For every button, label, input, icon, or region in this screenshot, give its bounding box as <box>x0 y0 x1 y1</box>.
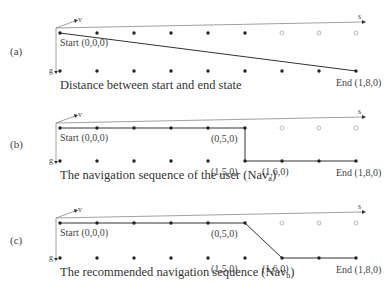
state-dot <box>206 31 209 34</box>
unvisited-state-dot <box>354 31 358 35</box>
state-dot <box>95 69 98 72</box>
state-dot <box>132 31 135 34</box>
v-axis <box>56 21 75 28</box>
state-dot <box>280 159 283 162</box>
state-dot <box>169 31 172 34</box>
caption: Distance between start and end state <box>60 79 242 92</box>
state-dot <box>243 69 246 72</box>
axis-label-v: v <box>78 16 82 24</box>
state-dot <box>58 31 61 34</box>
state-dot <box>206 221 209 224</box>
state-dot <box>132 159 135 162</box>
g-axis-arrow-icon <box>54 71 58 74</box>
state-dot <box>243 126 246 129</box>
state-dot <box>95 256 98 259</box>
axis-label-g: g <box>49 157 53 165</box>
axis-label-s: s <box>358 108 361 116</box>
coordinate-label: (0,5,0) <box>211 229 238 239</box>
state-dot <box>354 69 357 72</box>
s-axis-arrow-icon <box>362 20 366 24</box>
caption-suffix: ) <box>272 168 276 182</box>
state-dot <box>317 69 320 72</box>
axis-label-v: v <box>78 111 82 119</box>
unvisited-state-dot <box>354 221 358 225</box>
end-label: End (1,8,0) <box>336 78 381 88</box>
caption: The recommended navigation sequence (Nav… <box>60 266 295 280</box>
state-dot <box>169 159 172 162</box>
state-dot <box>243 159 246 162</box>
state-dot <box>95 126 98 129</box>
state-space-diagram <box>0 0 392 297</box>
unvisited-state-dot <box>280 126 284 130</box>
s-axis-arrow-icon <box>362 115 366 119</box>
s-axis <box>56 22 362 28</box>
g-axis-arrow-icon <box>54 258 58 261</box>
g-axis-arrow-icon <box>54 161 58 164</box>
v-axis <box>56 211 75 218</box>
state-dot <box>317 256 320 259</box>
start-label: Start (0,0,0) <box>60 133 108 143</box>
start-label: Start (0,0,0) <box>60 228 108 238</box>
state-dot <box>206 69 209 72</box>
s-axis-arrow-icon <box>362 210 366 214</box>
state-dot <box>206 159 209 162</box>
unvisited-state-dot <box>280 31 284 35</box>
v-axis <box>56 116 75 123</box>
caption-suffix: ) <box>290 265 294 279</box>
state-dot <box>169 256 172 259</box>
axis-label-s: s <box>358 203 361 211</box>
caption-text: Distance between start and end state <box>60 78 242 92</box>
s-axis <box>56 117 362 123</box>
state-dot <box>95 159 98 162</box>
state-dot <box>243 31 246 34</box>
state-dot <box>317 159 320 162</box>
end-label: End (1,8,0) <box>336 168 381 178</box>
axis-label-g: g <box>49 254 53 262</box>
state-dot <box>95 221 98 224</box>
panel-label: (b) <box>10 139 23 150</box>
s-axis <box>56 212 362 218</box>
state-dot <box>132 126 135 129</box>
state-dot <box>132 221 135 224</box>
state-dot <box>58 69 61 72</box>
unvisited-state-dot <box>317 31 321 35</box>
state-dot <box>280 256 283 259</box>
state-dot <box>132 69 135 72</box>
unvisited-state-dot <box>280 221 284 225</box>
unvisited-state-dot <box>317 221 321 225</box>
caption-text: The navigation sequence of the user (Nav <box>60 168 268 182</box>
state-dot <box>169 221 172 224</box>
state-dot <box>206 256 209 259</box>
state-dot <box>354 159 357 162</box>
axis-label-v: v <box>78 206 82 214</box>
state-dot <box>58 256 61 259</box>
unvisited-state-dot <box>354 126 358 130</box>
state-dot <box>280 69 283 72</box>
panel-label: (a) <box>10 46 22 57</box>
state-dot <box>58 221 61 224</box>
state-dot <box>58 126 61 129</box>
caption-text: The recommended navigation sequence (Nav <box>60 265 286 279</box>
state-dot <box>354 256 357 259</box>
state-dot <box>243 221 246 224</box>
state-dot <box>206 126 209 129</box>
axis-label-g: g <box>49 67 53 75</box>
unvisited-state-dot <box>317 126 321 130</box>
panel-label: (c) <box>10 235 22 246</box>
caption: The navigation sequence of the user (Nav… <box>60 169 276 183</box>
state-dot <box>95 31 98 34</box>
coordinate-label: (0,5,0) <box>211 134 238 144</box>
axis-label-s: s <box>358 13 361 21</box>
state-dot <box>58 159 61 162</box>
start-label: Start (0,0,0) <box>60 38 108 48</box>
state-dot <box>169 69 172 72</box>
state-dot <box>169 126 172 129</box>
state-dot <box>243 256 246 259</box>
end-label: End (1,8,0) <box>336 265 381 275</box>
state-dot <box>132 256 135 259</box>
